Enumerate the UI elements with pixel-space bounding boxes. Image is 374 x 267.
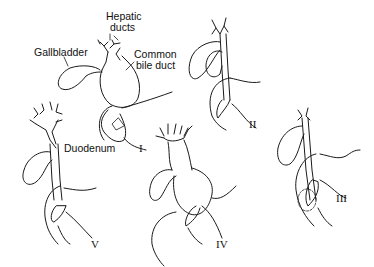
type-5-drawing xyxy=(23,102,96,244)
choledochal-cyst-diagram xyxy=(0,0,374,267)
gallbladder-label: Gallbladder xyxy=(34,47,88,58)
common-bile-duct-label-line2: bile duct xyxy=(136,60,175,71)
type-1-numeral: I xyxy=(139,142,143,154)
type-3-drawing xyxy=(278,108,360,226)
type-2-numeral: II xyxy=(249,118,256,130)
duodenum-label: Duodenum xyxy=(64,143,115,154)
type-5-numeral: V xyxy=(91,238,99,250)
type-2-drawing xyxy=(189,18,260,130)
hepatic-ducts-label-line2: ducts xyxy=(110,22,135,33)
type-4-numeral: IV xyxy=(216,238,228,250)
type-3-numeral: III xyxy=(336,192,347,204)
